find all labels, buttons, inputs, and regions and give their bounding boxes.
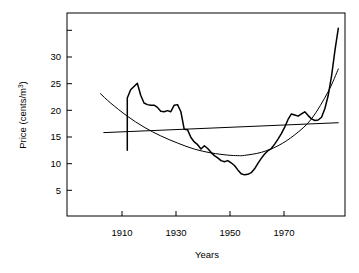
y-tick-label-15: 15: [50, 131, 61, 142]
y-tick-label-20: 20: [50, 105, 61, 116]
series-observed-price: [127, 28, 338, 174]
y-axis-title: Price (cents/m3): [17, 81, 29, 149]
y-tick-labels: 5 10 15 20 25 30: [50, 51, 61, 195]
x-tick-label-1910: 1910: [111, 227, 132, 238]
x-tick-marks: [122, 211, 284, 216]
chart-svg: 5 10 15 20 25 30 1910 1930 1950 1970 Pri…: [0, 0, 359, 273]
y-axis-title-suffix: ): [17, 81, 28, 84]
x-tick-label-1970: 1970: [273, 227, 294, 238]
y-tick-label-25: 25: [50, 78, 61, 89]
x-axis-title: Years: [195, 249, 219, 260]
y-axis-title-main: Price (cents/m: [17, 88, 28, 149]
y-tick-label-30: 30: [50, 51, 61, 62]
x-tick-label-1950: 1950: [219, 227, 240, 238]
x-tick-labels: 1910 1930 1950 1970: [111, 227, 294, 238]
y-tick-marks: [67, 30, 72, 190]
plot-frame: [67, 13, 345, 216]
y-tick-label-5: 5: [56, 185, 61, 196]
x-tick-label-1930: 1930: [165, 227, 186, 238]
chart-figure: 5 10 15 20 25 30 1910 1930 1950 1970 Pri…: [0, 0, 359, 273]
y-tick-label-10: 10: [50, 158, 61, 169]
